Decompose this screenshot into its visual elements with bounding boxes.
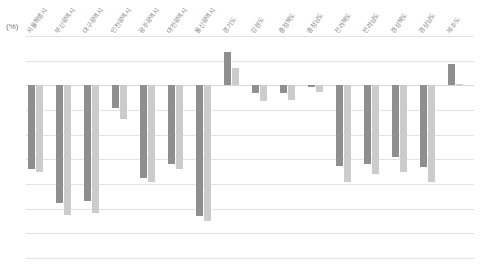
category-label: 대구광역시 — [80, 5, 105, 35]
bar[interactable] — [316, 85, 323, 92]
bar[interactable] — [428, 85, 435, 181]
bar[interactable] — [196, 85, 203, 216]
bar[interactable] — [336, 85, 343, 165]
bar[interactable] — [344, 85, 351, 181]
category-label: 전라북도 — [332, 10, 354, 35]
bar[interactable] — [364, 85, 371, 164]
bar-group[interactable] — [418, 36, 446, 258]
category-label: 서울특별시 — [24, 5, 49, 35]
category-label: 대전광역시 — [164, 5, 189, 35]
category-label: 강원도 — [248, 15, 266, 35]
category-label: 부산광역시 — [52, 5, 77, 35]
category-label: 울산광역시 — [192, 5, 217, 35]
bar[interactable] — [64, 85, 71, 214]
bar-series-container — [26, 36, 474, 258]
bar[interactable] — [232, 68, 239, 86]
bar-group[interactable] — [82, 36, 110, 258]
bar-group[interactable] — [362, 36, 390, 258]
bar[interactable] — [308, 85, 315, 86]
bar[interactable] — [168, 85, 175, 164]
bar[interactable] — [392, 85, 399, 157]
category-label: 충청북도 — [276, 10, 298, 35]
bar[interactable] — [448, 64, 455, 86]
bar[interactable] — [252, 85, 259, 93]
bar-group[interactable] — [278, 36, 306, 258]
bar-group[interactable] — [446, 36, 474, 258]
category-label: 경상남도 — [416, 10, 438, 35]
bar[interactable] — [280, 85, 287, 93]
bar-group[interactable] — [194, 36, 222, 258]
category-label: 충청남도 — [304, 10, 326, 35]
bar[interactable] — [400, 85, 407, 172]
bar-group[interactable] — [26, 36, 54, 258]
bar[interactable] — [420, 85, 427, 166]
bar[interactable] — [288, 85, 295, 100]
bar[interactable] — [120, 85, 127, 119]
bar-group[interactable] — [110, 36, 138, 258]
bar[interactable] — [260, 85, 267, 101]
bar[interactable] — [112, 85, 119, 107]
bar[interactable] — [84, 85, 91, 201]
bar-group[interactable] — [222, 36, 250, 258]
bar-chart: (%) 서울특별시부산광역시대구광역시인천광역시광주광역시대전광역시울산광역시경… — [0, 0, 480, 267]
bar[interactable] — [56, 85, 63, 202]
bar[interactable] — [92, 85, 99, 212]
y-axis-unit-label: (%) — [6, 22, 18, 31]
category-label: 경상북도 — [388, 10, 410, 35]
bar-group[interactable] — [138, 36, 166, 258]
bar[interactable] — [176, 85, 183, 169]
category-label: 인천광역시 — [108, 5, 133, 35]
bar-group[interactable] — [250, 36, 278, 258]
bar-group[interactable] — [334, 36, 362, 258]
category-label: 제주도 — [444, 15, 462, 35]
bar[interactable] — [372, 85, 379, 174]
bar[interactable] — [36, 85, 43, 172]
bar-group[interactable] — [390, 36, 418, 258]
bar[interactable] — [456, 84, 463, 85]
bar[interactable] — [224, 52, 231, 86]
bar-group[interactable] — [54, 36, 82, 258]
bar[interactable] — [140, 85, 147, 178]
plot-area: 1050-5-10-15-20-25-30-35 — [26, 36, 474, 258]
category-label: 전라남도 — [360, 10, 382, 35]
bar[interactable] — [28, 85, 35, 169]
category-label: 경기도 — [220, 15, 238, 35]
category-label: 광주광역시 — [136, 5, 161, 35]
bar[interactable] — [148, 85, 155, 181]
category-axis-labels: 서울특별시부산광역시대구광역시인천광역시광주광역시대전광역시울산광역시경기도강원… — [26, 0, 474, 36]
bar[interactable] — [204, 85, 211, 221]
bar-group[interactable] — [306, 36, 334, 258]
bar-group[interactable] — [166, 36, 194, 258]
gridline — [26, 258, 474, 259]
